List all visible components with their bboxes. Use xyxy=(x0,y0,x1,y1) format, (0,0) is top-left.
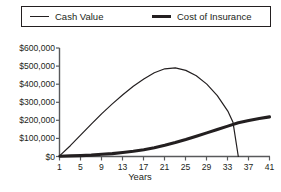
x-tick-label: 41 xyxy=(259,163,281,172)
plot-area: $600,000 $500,000 $400,000 $300,000 $200… xyxy=(0,30,280,192)
x-tick-label: 21 xyxy=(154,163,176,172)
x-tick-label: 5 xyxy=(70,163,92,172)
x-tick-label: 1 xyxy=(49,163,71,172)
legend-item-cost-of-insurance: Cost of Insurance xyxy=(152,7,251,26)
legend-label-cost-of-insurance: Cost of Insurance xyxy=(177,12,251,22)
x-axis-title: Years xyxy=(0,172,280,181)
x-tick-label: 33 xyxy=(217,163,239,172)
chart-container: Cash Value Cost of Insurance xyxy=(0,0,280,192)
x-tick-label: 25 xyxy=(175,163,197,172)
thin-line-swatch-icon xyxy=(30,16,49,17)
x-tick-label: 9 xyxy=(91,163,113,172)
legend-item-cash-value: Cash Value xyxy=(30,7,103,26)
x-axis-tick-labels: 1 5 9 13 17 21 25 29 33 37 41 xyxy=(0,30,280,192)
legend-label-cash-value: Cash Value xyxy=(55,12,103,22)
x-tick-label: 29 xyxy=(196,163,218,172)
chart-legend: Cash Value Cost of Insurance xyxy=(21,6,271,27)
thick-line-swatch-icon xyxy=(152,15,171,18)
x-tick-label: 37 xyxy=(238,163,260,172)
